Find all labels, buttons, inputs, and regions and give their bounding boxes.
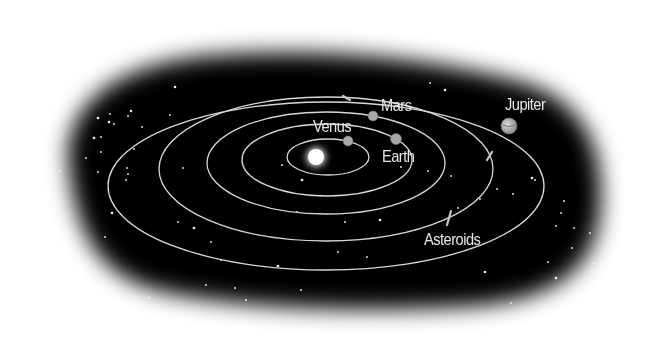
star — [300, 289, 302, 291]
star — [563, 200, 565, 202]
star — [100, 151, 102, 153]
star — [277, 265, 280, 268]
star — [133, 148, 135, 150]
star — [193, 227, 196, 230]
star — [97, 171, 99, 173]
star — [496, 188, 498, 190]
star — [234, 287, 236, 289]
sun-core — [308, 149, 324, 165]
star — [555, 225, 557, 227]
label-mars: Mars — [381, 97, 411, 114]
star — [457, 207, 459, 209]
star — [245, 299, 247, 301]
star — [59, 170, 61, 172]
star — [344, 221, 346, 223]
label-asteroids: Asteroids — [424, 231, 480, 248]
star — [593, 262, 596, 265]
label-jupiter: Jupiter — [505, 96, 545, 113]
star — [531, 177, 534, 180]
star — [93, 137, 96, 140]
star — [560, 212, 562, 214]
star — [366, 256, 368, 258]
star — [205, 284, 207, 286]
star — [484, 271, 487, 274]
star — [301, 179, 304, 182]
star — [127, 173, 129, 175]
label-earth: Earth — [382, 148, 414, 165]
star — [85, 157, 87, 159]
star — [210, 241, 212, 243]
star — [43, 188, 45, 190]
star — [450, 175, 452, 177]
star — [379, 219, 382, 222]
star — [109, 113, 111, 115]
star — [510, 302, 512, 304]
star — [125, 179, 127, 181]
star — [148, 297, 151, 300]
star — [130, 110, 133, 113]
planet-mars — [368, 111, 378, 121]
star — [97, 117, 100, 120]
label-venus: Venus — [313, 118, 351, 135]
star — [113, 123, 115, 125]
star — [126, 167, 128, 169]
star — [141, 126, 143, 128]
star — [127, 115, 129, 117]
star — [555, 277, 558, 280]
star — [177, 221, 179, 223]
star — [512, 193, 514, 195]
solar-system-diagram: Venus Mars Earth Jupiter Asteroids — [0, 0, 654, 340]
star — [429, 82, 431, 84]
star — [182, 167, 184, 169]
star — [111, 212, 114, 215]
star — [281, 164, 283, 166]
sun — [303, 144, 329, 170]
star — [400, 166, 402, 168]
star — [573, 227, 575, 229]
star — [571, 247, 573, 249]
star — [104, 236, 106, 238]
star — [427, 170, 429, 172]
star — [100, 136, 102, 138]
star — [169, 114, 171, 116]
space-background — [68, 53, 600, 309]
diagram-canvas — [0, 0, 654, 340]
star — [534, 179, 536, 181]
star — [108, 121, 111, 124]
star — [444, 89, 447, 92]
planet-earth — [391, 134, 402, 145]
star — [589, 232, 591, 234]
star — [547, 261, 549, 263]
star — [56, 212, 58, 214]
star — [337, 251, 339, 253]
planet-venus — [343, 136, 353, 146]
star — [174, 86, 177, 89]
